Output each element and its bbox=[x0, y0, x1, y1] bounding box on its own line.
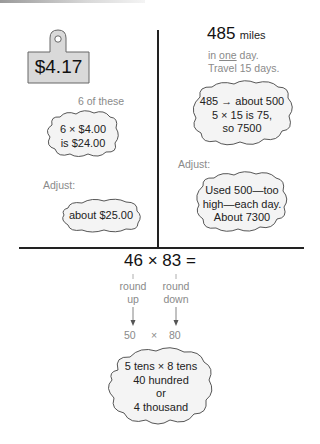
cloud-line: 6 × $4.00 bbox=[50, 123, 116, 137]
round-direction: down bbox=[154, 293, 198, 306]
horizontal-divider bbox=[19, 247, 304, 249]
adjust-label-right: Adjust: bbox=[178, 158, 210, 170]
vertical-divider bbox=[157, 30, 159, 248]
cloud-line: Used 500—too bbox=[199, 184, 285, 198]
adjusted-cloud-left: about $25.00 bbox=[64, 209, 138, 223]
emphasized-word: one bbox=[219, 49, 237, 61]
estimate-cloud-right: 485 → about 500 5 × 15 is 75, so 7500 bbox=[196, 95, 288, 136]
cloud-line: 4 thousand bbox=[112, 401, 210, 415]
price-tag-label: $4.17 bbox=[28, 56, 89, 78]
cloud-line: or bbox=[112, 387, 210, 401]
cloud-line: 5 tens × 8 tens bbox=[112, 360, 210, 374]
cloud-line: is $24.00 bbox=[50, 137, 116, 151]
problem-line-2: Travel 15 days. bbox=[208, 62, 279, 75]
round-direction: up bbox=[113, 293, 153, 306]
problem-line-1: in one day. bbox=[208, 49, 279, 62]
distance-unit: miles bbox=[240, 29, 266, 41]
quantity-label: 6 of these bbox=[78, 95, 124, 107]
problem-text: in one day. Travel 15 days. bbox=[208, 49, 279, 75]
estimate-cloud-left: 6 × $4.00 is $24.00 bbox=[50, 123, 116, 150]
rounded-times-sign: × bbox=[151, 329, 157, 341]
cloud-line: high—each day. bbox=[199, 198, 285, 212]
rounded-left-value: 50 bbox=[124, 329, 136, 341]
result-cloud: 5 tens × 8 tens 40 hundred or 4 thousand bbox=[112, 360, 210, 414]
round-down-label: round down bbox=[154, 280, 198, 305]
equation: 46 × 83 = bbox=[100, 251, 220, 271]
round-word: round bbox=[154, 280, 198, 293]
adjusted-cloud-right: Used 500—too high—each day. About 7300 bbox=[199, 184, 285, 225]
cloud-line: 485 → about 500 bbox=[196, 95, 288, 109]
adjust-label-left: Adjust: bbox=[43, 179, 75, 191]
down-arrow-icon bbox=[174, 307, 179, 326]
cloud-line: 40 hundred bbox=[112, 374, 210, 388]
cloud-line: 5 × 15 is 75, bbox=[196, 109, 288, 123]
distance-number: 485 bbox=[207, 24, 235, 43]
rounded-right-value: 80 bbox=[169, 329, 181, 341]
cloud-line: About 7300 bbox=[199, 211, 285, 225]
round-up-label: round up bbox=[113, 280, 153, 305]
down-arrow-icon bbox=[131, 307, 136, 326]
cloud-line: so 7500 bbox=[196, 122, 288, 136]
distance-heading: 485 miles bbox=[207, 24, 266, 44]
round-word: round bbox=[113, 280, 153, 293]
